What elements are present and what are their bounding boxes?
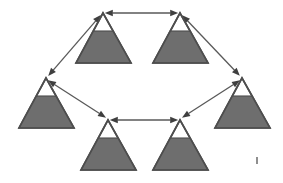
- triangle-middle-left: [17, 78, 76, 128]
- triangle-top-right: [151, 13, 210, 63]
- edge-top-arrowhead-left: [105, 10, 113, 16]
- edge-lower-left-arrowhead-bottom: [98, 111, 106, 118]
- edge-bottom-arrowhead-right: [170, 117, 178, 123]
- triangle-bottom-right-fill: [151, 138, 210, 170]
- triangle-bottom-left-fill: [79, 138, 138, 170]
- triangle-middle-left-fill: [17, 96, 76, 128]
- diagram-canvas: [0, 0, 283, 183]
- triangle-bottom-right: [151, 120, 210, 170]
- scan-artifact-speck: [256, 157, 258, 164]
- edge-lower-right-arrowhead-bottom: [182, 111, 190, 118]
- edge-bottom-arrowhead-left: [110, 117, 118, 123]
- triangle-ring-diagram: [0, 0, 283, 183]
- edge-top-arrowhead-right: [170, 10, 178, 16]
- edge-bottom: [110, 117, 178, 123]
- triangle-middle-right-fill: [213, 96, 272, 128]
- triangle-top-left: [74, 13, 133, 63]
- triangle-bottom-left: [79, 120, 138, 170]
- edge-top: [105, 10, 178, 16]
- triangle-middle-right: [213, 78, 272, 128]
